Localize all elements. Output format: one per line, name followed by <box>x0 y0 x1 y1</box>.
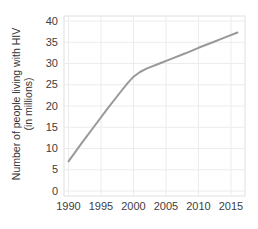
y-axis-title-line1: Number of people living with HIV <box>10 28 22 180</box>
x-tick-label-2010: 2010 <box>186 200 210 212</box>
y-tick-label-35: 35 <box>46 36 58 48</box>
y-axis-title-line2: (in millions) <box>22 77 34 130</box>
x-tick-label-2015: 2015 <box>219 200 243 212</box>
x-tick-label-1995: 1995 <box>89 200 113 212</box>
y-tick-label-20: 20 <box>46 100 58 112</box>
x-tick-label-2000: 2000 <box>121 200 145 212</box>
x-axis-tick-labels: 199019952000200520102015 <box>56 200 243 212</box>
y-tick-label-30: 30 <box>46 57 58 69</box>
y-axis-tick-labels: 0510152025303540 <box>46 15 58 197</box>
hiv-line-chart: 199019952000200520102015 051015202530354… <box>0 0 258 229</box>
x-tick-label-1990: 1990 <box>56 200 80 212</box>
y-tick-label-10: 10 <box>46 142 58 154</box>
y-tick-label-0: 0 <box>52 185 58 197</box>
y-tick-label-5: 5 <box>52 163 58 175</box>
x-tick-label-2005: 2005 <box>154 200 178 212</box>
y-tick-label-40: 40 <box>46 15 58 27</box>
y-tick-label-15: 15 <box>46 121 58 133</box>
hiv-line-chart-figure: 199019952000200520102015 051015202530354… <box>0 0 258 229</box>
y-tick-label-25: 25 <box>46 78 58 90</box>
